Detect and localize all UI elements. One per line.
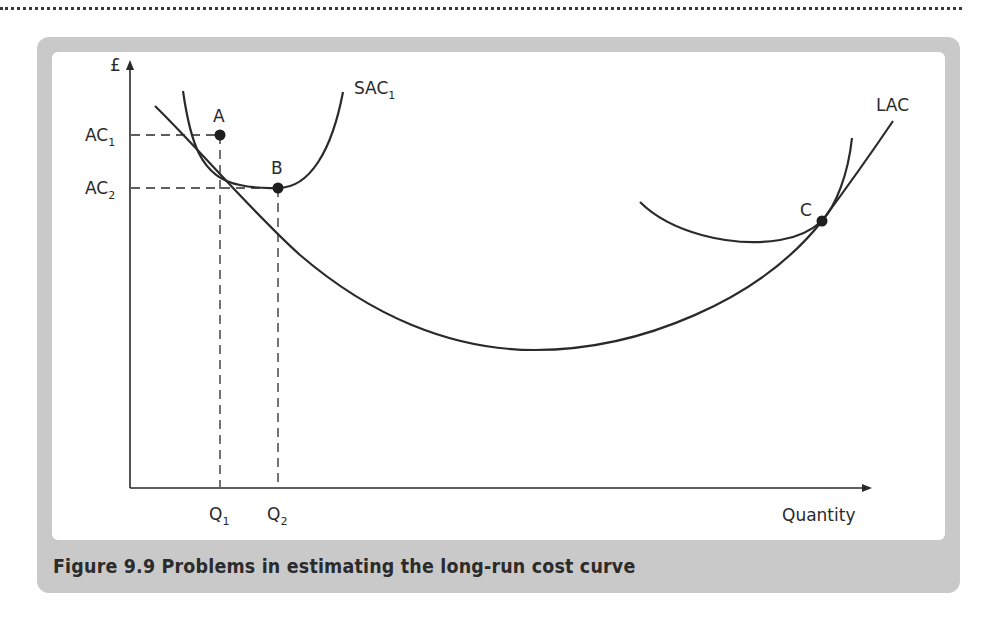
x-axis-label: Quantity: [782, 505, 855, 525]
point-c-marker: [817, 216, 828, 227]
point-a-label: A: [213, 106, 225, 126]
lac-label: LAC: [876, 95, 909, 115]
ac2-label: AC2: [85, 178, 115, 202]
lac-curve: [155, 106, 893, 350]
y-axis-label: £: [110, 55, 121, 75]
q2-label: Q2: [267, 504, 287, 528]
point-a-marker: [215, 130, 226, 141]
sac1-label: SAC1: [354, 78, 395, 102]
sac-large-curve: [640, 138, 852, 242]
ac1-label: AC1: [85, 125, 115, 149]
point-b-label: B: [271, 158, 283, 178]
figure-caption: Figure 9.9 Problems in estimating the lo…: [53, 546, 635, 586]
point-c-label: C: [800, 200, 812, 220]
point-b-marker: [273, 183, 284, 194]
cost-curve-chart: £ AC1 AC2 A B C SAC1 LAC Q1 Q2 Quantity: [0, 0, 1001, 627]
q1-label: Q1: [209, 504, 229, 528]
sac1-curve: [183, 91, 343, 188]
